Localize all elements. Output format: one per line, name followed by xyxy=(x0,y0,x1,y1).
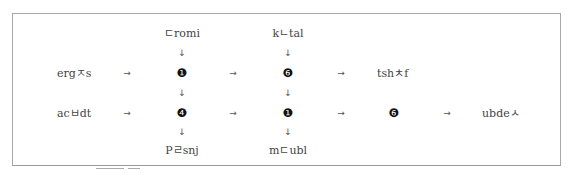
right-arrow-icon: → xyxy=(229,109,237,118)
row1-source: ergㅈs xyxy=(57,68,91,79)
row2-node-1: ❹ xyxy=(177,107,188,119)
top-label-1: ㄷromi xyxy=(164,28,200,39)
row1-node-2: ❻ xyxy=(283,67,294,79)
right-arrow-icon: → xyxy=(123,69,131,78)
top-label-2: kㄴtal xyxy=(272,28,303,39)
down-arrow-icon: ↓ xyxy=(284,128,292,137)
bottom-label-2: mㄷubl xyxy=(269,145,307,156)
down-arrow-icon: ↓ xyxy=(178,89,186,98)
down-arrow-icon: ↓ xyxy=(284,49,292,58)
down-arrow-icon: ↓ xyxy=(284,89,292,98)
right-arrow-icon: → xyxy=(337,109,345,118)
down-arrow-icon: ↓ xyxy=(178,49,186,58)
row2-node-2: ❶ xyxy=(283,107,294,119)
right-arrow-icon: → xyxy=(443,109,451,118)
right-arrow-icon: → xyxy=(123,109,131,118)
scan-artifact xyxy=(128,168,140,169)
row1-target: tshㅊf xyxy=(377,68,408,79)
row2-target: ubdeㅅ xyxy=(482,108,520,119)
row1-node-1: ❶ xyxy=(177,67,188,79)
bottom-label-1: Pㄹsnj xyxy=(165,145,199,156)
row2-node-3: ❻ xyxy=(389,107,400,119)
right-arrow-icon: → xyxy=(337,69,345,78)
row2-source: acㅂdt xyxy=(57,108,91,119)
right-arrow-icon: → xyxy=(229,69,237,78)
scan-artifact xyxy=(96,168,124,169)
down-arrow-icon: ↓ xyxy=(178,128,186,137)
